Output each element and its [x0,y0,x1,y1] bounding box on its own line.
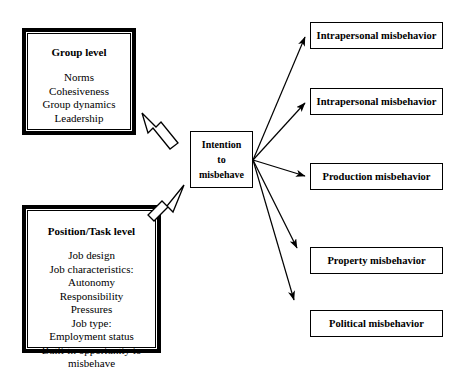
position-task-item: Built-in opportunity to [42,344,142,358]
group-level-item: Cohesiveness [42,85,115,99]
group-level-item: Group dynamics [42,98,115,112]
block-arrow-group-to-intention [142,113,178,149]
position-task-item: Job design [42,249,142,263]
position-task-item: Employment status [42,330,142,344]
position-task-level-box: Position/Task level Job design Job chara… [22,205,161,353]
fan-arrows [253,37,305,300]
diagram-canvas: Group level Norms Cohesiveness Group dyn… [0,0,465,375]
position-task-item: Job type: [42,317,142,331]
arrow-to-outcome-3 [253,160,305,176]
outcome-label: Intrapersonal misbehavior [317,30,437,41]
group-level-item: Leadership [42,112,115,126]
position-task-level-title: Position/Task level [48,225,135,238]
outcome-box-intrapersonal-1: Intrapersonal misbehavior [310,22,443,49]
outcome-label: Property misbehavior [327,255,425,266]
outcome-box-production: Production misbehavior [310,163,443,190]
outcome-box-political: Political misbehavior [310,310,443,337]
position-task-item: misbehave [42,357,142,371]
intention-line: Intention [202,139,241,150]
arrow-to-outcome-5 [253,160,294,300]
position-task-level-items: Job design Job characteristics: Autonomy… [42,249,142,371]
position-task-item: Responsibility [42,290,142,304]
position-task-item: Autonomy [42,276,142,290]
group-level-box: Group level Norms Cohesiveness Group dyn… [22,28,136,135]
outcome-label: Intrapersonal misbehavior [317,96,437,107]
outcome-box-intrapersonal-2: Intrapersonal misbehavior [310,88,443,115]
intention-to-misbehave-box: Intention to misbehave [190,131,253,188]
position-task-item: Pressures [42,303,142,317]
group-level-title: Group level [51,46,106,59]
position-task-item: Job characteristics: [42,263,142,277]
outcome-label: Political misbehavior [329,318,424,329]
group-level-item: Norms [42,71,115,85]
arrow-to-outcome-2 [253,103,305,160]
arrow-to-outcome-1 [253,37,305,160]
intention-line: misbehave [199,169,244,180]
arrow-to-outcome-4 [253,160,297,248]
group-level-items: Norms Cohesiveness Group dynamics Leader… [42,71,115,125]
outcome-box-property: Property misbehavior [310,247,443,274]
intention-line: to [217,154,225,165]
outcome-label: Production misbehavior [322,171,430,182]
